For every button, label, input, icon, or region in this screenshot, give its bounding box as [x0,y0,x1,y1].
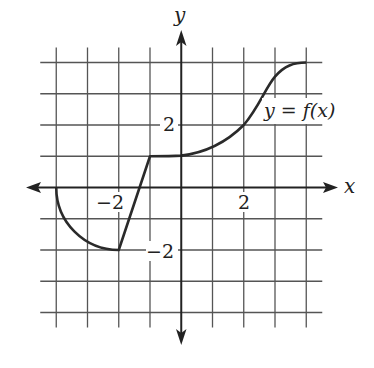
x-tick-label-neg2: −2 [96,191,124,213]
curve-label: y = f(x) [263,99,335,121]
y-tick-label-2: 2 [163,113,175,135]
x-tick-label-2: 2 [238,191,250,213]
y-axis: y [173,3,187,345]
x-axis-label: x [344,174,355,198]
function-graph: x y −2 2 2 −2 y = f(x) [0,0,374,368]
y-tick-label-neg2: −2 [146,240,174,262]
y-axis-label: y [173,3,186,27]
